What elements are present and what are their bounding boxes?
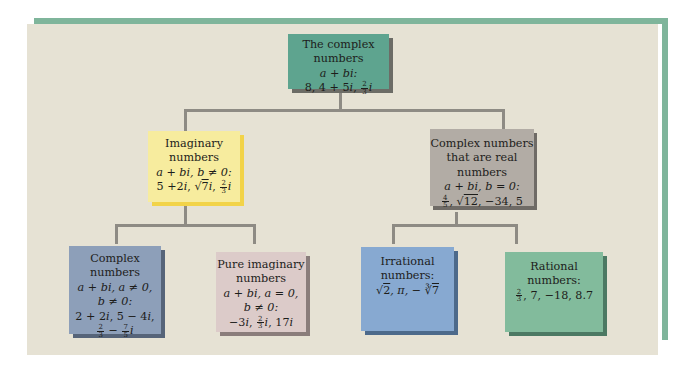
frame-accent-right (662, 18, 668, 340)
node-title-line1: Rational (505, 260, 603, 274)
node-irrational-numbers: Irrational numbers: √2, π, − ∛7 (361, 247, 454, 331)
node-condition-line1: a + bi, a ≠ 0, (69, 281, 161, 295)
node-examples-line2: 23 − 75i (69, 324, 161, 339)
connector-to-irrational (392, 224, 395, 244)
connector-imaginary-down (184, 205, 187, 226)
node-title-line1: Complex numbers (430, 137, 534, 151)
connector-to-rational (515, 224, 518, 244)
connector-to-complex (115, 224, 118, 244)
node-title-line1: Irrational (361, 255, 454, 269)
node-title-line1: Imaginary (148, 137, 240, 151)
node-imaginary-numbers: Imaginary numbers a + bi, b ≠ 0: 5 +2i, … (148, 131, 240, 202)
connector-level2-left-horizontal (115, 224, 256, 227)
node-complex-numbers: Complex numbers a + bi, a ≠ 0, b ≠ 0: 2 … (69, 246, 161, 334)
connector-level1-horizontal (184, 109, 505, 112)
node-title: Complex numbers (69, 252, 161, 281)
node-title-line2: numbers: (505, 274, 603, 288)
node-condition-line2: b ≠ 0: (216, 301, 306, 315)
node-condition-line1: a + bi, a = 0, (216, 287, 306, 301)
node-examples: 45, √12, −34, 5 (430, 195, 534, 210)
node-examples: −3i, 23i, 17i (216, 316, 306, 331)
node-real-numbers: Complex numbers that are real numbers a … (430, 129, 534, 206)
connector-to-real (502, 109, 505, 131)
node-title-line2: that are real numbers (430, 151, 534, 180)
node-form: a + bi: (288, 67, 389, 81)
node-title-line2: numbers: (361, 269, 454, 283)
node-examples-line1: 2 + 2i, 5 − 4i, (69, 310, 161, 324)
node-examples: 5 +2i, √7i, 23i (148, 180, 240, 195)
node-title: The complex numbers (288, 38, 389, 67)
connector-to-pure-imaginary (253, 224, 256, 244)
node-rational-numbers: Rational numbers: 23, 7, −18, 8.7 (505, 252, 603, 332)
node-condition-line2: b ≠ 0: (69, 295, 161, 309)
node-examples: √2, π, − ∛7 (361, 284, 454, 298)
node-title-line2: numbers (216, 272, 306, 286)
connector-to-imaginary (184, 109, 187, 131)
connector-level2-right-horizontal (392, 224, 518, 227)
node-condition: a + bi, b ≠ 0: (148, 166, 240, 180)
node-condition: a + bi, b = 0: (430, 180, 534, 194)
node-title-line1: Pure imaginary (216, 258, 306, 272)
node-pure-imaginary-numbers: Pure imaginary numbers a + bi, a = 0, b … (216, 252, 306, 332)
node-complex-numbers-root: The complex numbers a + bi: 8, 4 + 5i, 2… (288, 34, 389, 89)
node-title-line2: numbers (148, 151, 240, 165)
node-examples: 8, 4 + 5i, 23i (288, 81, 389, 96)
node-examples: 23, 7, −18, 8.7 (505, 289, 603, 304)
